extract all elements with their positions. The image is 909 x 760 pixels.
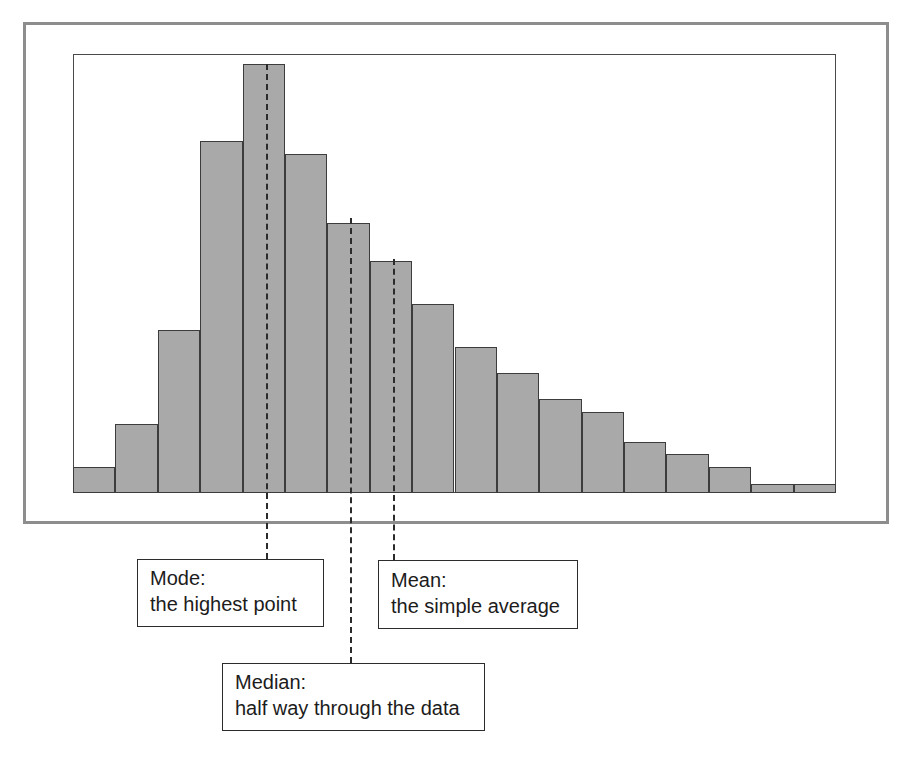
histogram-bar — [115, 424, 157, 493]
histogram-bar — [497, 373, 539, 493]
histogram-bar — [624, 442, 666, 493]
histogram-bar — [794, 484, 836, 493]
histogram-bar — [709, 467, 751, 493]
histogram-bar — [243, 64, 285, 493]
histogram-bar — [539, 399, 581, 493]
callout-mode-title: Mode: — [150, 566, 311, 592]
callout-mode-description: the highest point — [150, 592, 311, 618]
callout-mean[interactable]: Mean: the simple average — [378, 560, 578, 629]
histogram-bar — [751, 484, 793, 493]
histogram-bar — [412, 304, 454, 493]
callout-mean-title: Mean: — [391, 568, 565, 594]
histogram-bar — [200, 141, 242, 493]
mode-marker-line — [266, 64, 268, 559]
histogram-bar — [158, 330, 200, 493]
callout-median[interactable]: Median: half way through the data — [222, 663, 485, 731]
callout-mean-description: the simple average — [391, 594, 565, 620]
callout-median-description: half way through the data — [235, 696, 472, 722]
page-bottom-margin — [0, 734, 909, 760]
histogram-bar — [370, 261, 412, 493]
figure-stage: Mode: the highest point Mean: the simple… — [0, 0, 909, 760]
histogram-bar — [285, 154, 327, 493]
histogram-bar — [73, 467, 115, 493]
histogram-bar — [455, 347, 497, 493]
callout-median-title: Median: — [235, 670, 472, 696]
callout-mode[interactable]: Mode: the highest point — [137, 559, 324, 627]
histogram-bars — [73, 54, 836, 493]
histogram-bar — [666, 454, 708, 493]
median-marker-line — [350, 218, 352, 663]
mean-marker-line — [393, 259, 395, 560]
histogram-bar — [582, 412, 624, 494]
histogram-bar — [327, 223, 369, 493]
